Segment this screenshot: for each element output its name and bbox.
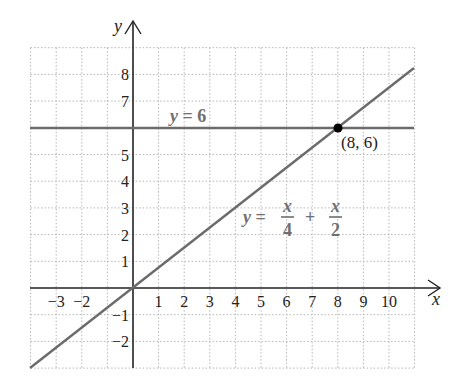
- svg-text:x: x: [330, 196, 340, 216]
- x-tick-label: 10: [381, 293, 397, 310]
- intersection-point: [334, 124, 343, 133]
- y-tick-label: −2: [112, 333, 129, 350]
- y-tick-label: 5: [121, 147, 129, 164]
- y-tick-label: 3: [121, 200, 129, 217]
- y-tick-label: 4: [121, 173, 129, 190]
- y-axis-label: y: [112, 16, 122, 36]
- y-tick-label: 2: [121, 227, 129, 244]
- svg-text:4: 4: [283, 220, 292, 240]
- y-tick-labels: 8754321−1−2: [112, 66, 129, 350]
- x-tick-label: 1: [155, 293, 163, 310]
- x-tick-label: 3: [206, 293, 214, 310]
- x-tick-label: 7: [308, 293, 316, 310]
- equation-label: y = x 4 + x 2: [241, 196, 342, 240]
- point-label: (8, 6): [341, 133, 378, 152]
- x-tick-label: −2: [73, 293, 90, 310]
- x-tick-label: −3: [48, 293, 65, 310]
- y-tick-label: 7: [121, 93, 129, 110]
- y-tick-label: −1: [112, 307, 129, 324]
- x-axis-label: x: [431, 289, 440, 309]
- x-tick-label: 4: [231, 293, 239, 310]
- x-tick-label: 2: [180, 293, 188, 310]
- grid: [31, 48, 415, 368]
- svg-text:x: x: [282, 196, 292, 216]
- x-tick-labels: −3−212345678910: [48, 293, 397, 310]
- hline-label: y = 6: [168, 106, 206, 126]
- y-tick-label: 8: [121, 66, 129, 83]
- x-tick-label: 8: [334, 293, 342, 310]
- y-tick-label: 1: [121, 253, 129, 270]
- svg-text:+: +: [305, 207, 315, 227]
- x-tick-label: 5: [257, 293, 265, 310]
- x-tick-label: 9: [359, 293, 367, 310]
- svg-text:2: 2: [331, 220, 340, 240]
- svg-text:y =: y =: [241, 207, 266, 227]
- coordinate-plane-chart: −3−212345678910 8754321−1−2 x y y = 6 (8…: [0, 0, 467, 389]
- x-tick-label: 6: [283, 293, 291, 310]
- series-line-diagonal: [30, 68, 414, 368]
